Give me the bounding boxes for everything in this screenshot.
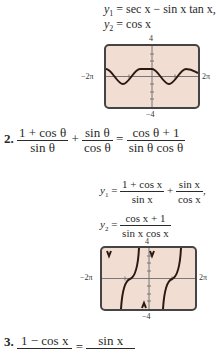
frac-num: 1 − cos x bbox=[17, 334, 72, 349]
graph1-ymax-label: 4 bbox=[149, 34, 153, 43]
y1-sub: 1 bbox=[105, 191, 109, 199]
problem-number: 3. bbox=[4, 334, 14, 349]
y2-expr: = cos x bbox=[113, 17, 151, 31]
p2-y1-frac2: sin xcos x bbox=[176, 177, 203, 206]
graph1-xmin-label: −2π bbox=[81, 72, 94, 81]
p3-frac1: 1 − cos x bbox=[17, 334, 72, 349]
y1-expr: = sec x − sin x tan x, bbox=[113, 2, 216, 16]
p2-frac3: cos θ + 1sin θ cos θ bbox=[127, 126, 186, 155]
frac-num: sin θ bbox=[82, 126, 113, 141]
p2-y2-frac: cos x + 1sin x cos x bbox=[120, 211, 171, 240]
graph2-svg bbox=[102, 248, 195, 309]
frac-den: cos x bbox=[176, 192, 203, 206]
frac-num: sin x bbox=[86, 334, 135, 349]
frac-num: cos x + 1 bbox=[120, 211, 171, 226]
problem-number: 2. bbox=[4, 131, 14, 146]
p2-y1-equation: y1 = 1 + cos xsin x + sin xcos x, bbox=[100, 177, 206, 206]
graph1-xmax-label: 2π bbox=[202, 72, 210, 81]
graph1-svg bbox=[106, 46, 198, 107]
equals-sign: = bbox=[76, 339, 83, 354]
p1-y2-equation: y2 = cos x bbox=[104, 17, 151, 33]
equals-sign: = bbox=[116, 131, 123, 146]
graph2-ymax-label: 4 bbox=[145, 237, 149, 246]
p1-y1-equation: y1 = sec x − sin x tan x, bbox=[104, 2, 216, 18]
frac-num: sin x bbox=[176, 177, 203, 192]
frac-den: sin θ bbox=[17, 141, 68, 155]
graph2-rational-plot bbox=[100, 246, 197, 311]
frac-num: cos θ + 1 bbox=[127, 126, 186, 141]
y2-sub: 2 bbox=[105, 225, 109, 233]
plus-sign: + bbox=[71, 131, 78, 146]
frac-num: 1 + cos x bbox=[120, 177, 164, 192]
graph2-xmax-label: 2π bbox=[199, 273, 207, 282]
frac-den: sin x bbox=[120, 192, 164, 206]
graph1-cos-plot bbox=[104, 44, 200, 109]
p2-y2-equation: y2 = cos x + 1sin x cos x bbox=[100, 211, 171, 240]
frac-den: cos θ bbox=[82, 141, 113, 155]
p3-frac2: sin x bbox=[86, 334, 135, 349]
graph1-ymin-label: −4 bbox=[146, 110, 155, 119]
p3-identity: 3. 1 − cos x = sin x bbox=[4, 334, 135, 350]
frac-num: 1 + cos θ bbox=[17, 126, 68, 141]
graph2-ymin-label: −4 bbox=[142, 312, 151, 321]
graph2-xmin-label: −2π bbox=[80, 273, 93, 282]
p2-identity: 2. 1 + cos θsin θ + sin θcos θ = cos θ +… bbox=[4, 126, 185, 155]
frac-den: sin θ cos θ bbox=[127, 141, 186, 155]
p2-frac1: 1 + cos θsin θ bbox=[17, 126, 68, 155]
p2-y1-frac1: 1 + cos xsin x bbox=[120, 177, 164, 206]
p2-frac2: sin θcos θ bbox=[82, 126, 113, 155]
